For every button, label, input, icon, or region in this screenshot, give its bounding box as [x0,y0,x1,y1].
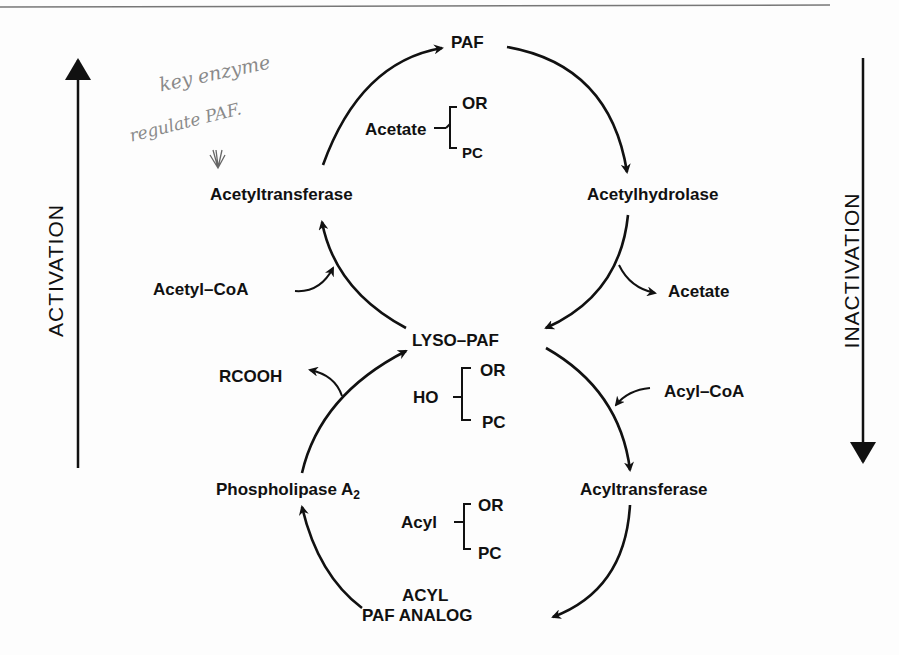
bracket-acetate [434,107,457,148]
inactivation-label: INACTIVATION [841,191,862,351]
phospholipase-text: Phospholipase A [216,480,353,499]
cofactor-acetate-out: Acetate [668,283,729,300]
arrow-acetylhydrolase-to-lysopaf [546,215,628,328]
top-rule [0,5,830,7]
arrow-phospholipase-to-lysopaf [302,351,406,473]
handwritten-arrow [210,150,225,168]
arrow-rcooh-out [310,370,342,396]
enzyme-acetylhydrolase: Acetylhydrolase [587,186,718,203]
enzyme-acyltransferase: Acyltransferase [580,481,708,498]
structure-acyl-group: Acyl [401,514,437,531]
enzyme-phospholipase-a2: Phospholipase A2 [216,481,360,501]
arrow-acetate-out [619,265,655,293]
node-lyso-paf: LYSO–PAF [412,332,499,349]
structure-acyl-bottom: PC [478,545,502,562]
arrow-paf-to-acetylhydrolase [507,47,627,172]
node-paf: PAF [451,34,484,51]
cofactor-rcooh: RCOOH [219,368,282,385]
structure-ho-top: OR [480,362,506,379]
structure-ho-bottom: PC [482,414,506,431]
arrow-acyltransferase-to-acylpaf [553,505,630,617]
cofactor-acyl-coa: Acyl–CoA [664,383,744,400]
arrow-lysopaf-to-acetyltransferase [322,222,406,328]
diagram-lines [0,0,899,655]
cofactor-acetyl-coa: Acetyl–CoA [153,281,248,298]
activation-label: ACTIVATION [45,201,66,341]
structure-acetate-top: OR [462,95,488,112]
diagram-canvas: ACTIVATION INACTIVATION PAF LYSO–PAF ACY… [0,0,899,655]
arrow-lysopaf-to-acyltransferase [546,348,630,470]
structure-acetate-bottom: PC [462,145,483,160]
node-acyl-paf-line1: ACYL [402,587,448,604]
bracket-ho [453,368,471,420]
arrow-acetyltransferase-to-paf [323,48,442,165]
structure-ho-group: HO [413,389,439,406]
arrow-acyl-coa-in [616,388,650,405]
node-acyl-paf-line2: PAF ANALOG [362,607,473,624]
enzyme-acetyltransferase: Acetyltransferase [210,186,353,203]
structure-acyl-top: OR [478,497,504,514]
bracket-acyl [454,504,471,549]
structure-acetate-group: Acetate [365,121,426,138]
arrow-acetyl-coa-in [295,268,333,291]
phospholipase-subscript: 2 [353,488,360,502]
arrow-acylpaf-to-phospholipase [302,507,362,608]
